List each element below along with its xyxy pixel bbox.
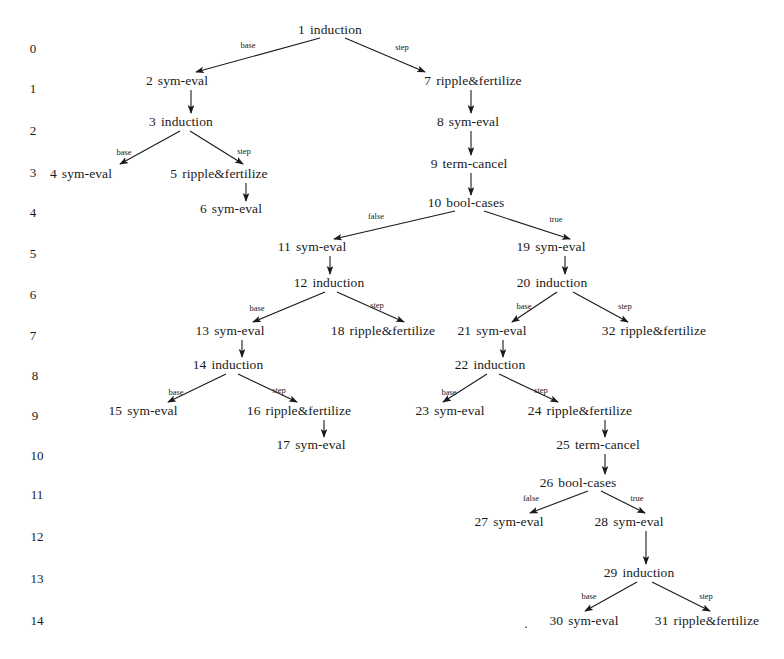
- tree-node: 8sym-eval: [437, 115, 499, 129]
- edge-label: step: [370, 301, 384, 310]
- node-label: sym-eval: [434, 403, 484, 418]
- node-label: sym-eval: [535, 239, 585, 254]
- edge-label: step: [237, 147, 251, 156]
- node-id: 29: [604, 565, 618, 580]
- stray-ink-mark: .: [524, 616, 527, 632]
- tree-node: 21sym-eval: [458, 324, 527, 338]
- node-label: induction: [312, 275, 364, 290]
- node-id: 28: [595, 514, 609, 529]
- edge-label: true: [630, 494, 643, 503]
- node-label: induction: [161, 114, 213, 129]
- node-id: 10: [428, 195, 442, 210]
- node-label: induction: [211, 357, 263, 372]
- node-label: sym-eval: [62, 166, 112, 181]
- tree-node: 30sym-eval: [550, 614, 619, 628]
- edge-label: true: [549, 215, 562, 224]
- row-index-label: 6: [30, 288, 37, 301]
- row-index-label: 11: [31, 488, 44, 501]
- tree-node: 19sym-eval: [517, 240, 586, 254]
- node-label: induction: [310, 22, 362, 37]
- tree-node: 31ripple&fertilize: [655, 614, 759, 628]
- tree-edge: [345, 38, 425, 72]
- row-index-label: 5: [30, 247, 37, 260]
- tree-node: 27sym-eval: [475, 515, 544, 529]
- edge-label: base: [240, 41, 255, 50]
- node-label: term-cancel: [575, 437, 640, 452]
- node-label: sym-eval: [449, 114, 499, 129]
- tree-node: 18ripple&fertilize: [331, 324, 435, 338]
- node-id: 26: [540, 475, 554, 490]
- node-id: 30: [550, 613, 564, 628]
- tree-node: 3induction: [149, 115, 213, 129]
- node-label: sym-eval: [613, 514, 663, 529]
- node-label: sym-eval: [212, 201, 262, 216]
- proof-tree-figure: 01234567891011121314 1induction2sym-eval…: [0, 0, 784, 659]
- node-label: sym-eval: [493, 514, 543, 529]
- node-id: 27: [475, 514, 489, 529]
- node-id: 17: [277, 437, 291, 452]
- node-id: 23: [416, 403, 430, 418]
- node-id: 7: [424, 73, 431, 88]
- node-label: ripple&fertilize: [266, 403, 352, 418]
- tree-node: 13sym-eval: [196, 324, 265, 338]
- row-index-label: 0: [30, 42, 37, 55]
- tree-node: 32ripple&fertilize: [602, 324, 706, 338]
- node-id: 12: [294, 275, 308, 290]
- row-index-label: 10: [31, 449, 44, 462]
- tree-edge: [196, 38, 320, 72]
- edge-label: false: [523, 494, 539, 503]
- tree-node: 16ripple&fertilize: [247, 404, 351, 418]
- tree-node: 12induction: [294, 276, 365, 290]
- node-id: 8: [437, 114, 444, 129]
- node-label: ripple&fertilize: [674, 613, 760, 628]
- node-label: ripple&fertilize: [621, 323, 707, 338]
- node-id: 1: [298, 22, 305, 37]
- tree-node: 23sym-eval: [416, 404, 485, 418]
- row-index-label: 2: [30, 124, 37, 137]
- row-index-label: 8: [32, 369, 39, 382]
- edge-label: base: [168, 388, 183, 397]
- node-id: 16: [247, 403, 261, 418]
- row-index-label: 4: [30, 206, 37, 219]
- row-index-label: 13: [31, 572, 44, 585]
- node-label: induction: [622, 565, 674, 580]
- tree-edge: [238, 374, 297, 402]
- node-label: sym-eval: [127, 403, 177, 418]
- node-label: ripple&fertilize: [182, 166, 268, 181]
- node-label: sym-eval: [214, 323, 264, 338]
- tree-edge: [190, 131, 243, 164]
- row-index-label: 12: [31, 530, 44, 543]
- row-index-label: 3: [30, 166, 37, 179]
- node-label: sym-eval: [296, 239, 346, 254]
- node-id: 31: [655, 613, 669, 628]
- tree-node: 26bool-cases: [540, 476, 617, 490]
- edge-label: base: [116, 148, 131, 157]
- row-index-label: 9: [32, 409, 39, 422]
- edge-label: step: [699, 592, 713, 601]
- tree-node: 2sym-eval: [146, 74, 208, 88]
- node-label: bool-cases: [558, 475, 616, 490]
- edge-label: step: [618, 302, 632, 311]
- tree-node: 4sym-eval: [50, 167, 112, 181]
- edge-label: step: [534, 386, 548, 395]
- node-id: 5: [170, 166, 177, 181]
- tree-node: 15sym-eval: [109, 404, 178, 418]
- tree-node: 14induction: [193, 358, 264, 372]
- tree-node: 17sym-eval: [277, 438, 346, 452]
- node-id: 6: [200, 201, 207, 216]
- edge-label: base: [249, 304, 264, 313]
- node-label: ripple&fertilize: [350, 323, 436, 338]
- node-label: sym-eval: [476, 323, 526, 338]
- tree-node: 5ripple&fertilize: [170, 167, 267, 181]
- node-id: 32: [602, 323, 616, 338]
- edge-label: step: [272, 386, 286, 395]
- node-id: 18: [331, 323, 345, 338]
- tree-node: 20induction: [517, 276, 588, 290]
- tree-node: 22induction: [455, 358, 526, 372]
- edge-label: false: [368, 212, 384, 221]
- row-index-label: 7: [30, 329, 37, 342]
- tree-node: 1induction: [298, 23, 362, 37]
- tree-node: 7ripple&fertilize: [424, 74, 521, 88]
- node-id: 19: [517, 239, 531, 254]
- node-id: 11: [278, 239, 291, 254]
